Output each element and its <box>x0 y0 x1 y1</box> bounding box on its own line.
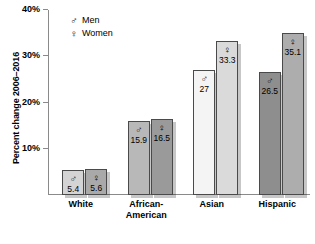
bar-value-label: 15.9 <box>129 135 149 145</box>
male-icon: ♂ <box>129 125 149 135</box>
female-icon: ♀ <box>86 173 106 183</box>
bar-hispanic-men[interactable]: ♂26.5 <box>259 72 281 195</box>
tick-label: 30% <box>22 50 40 60</box>
bar-annotation: ♀5.6 <box>86 173 106 193</box>
bar-asian-women[interactable]: ♀33.3 <box>216 41 238 195</box>
y-tick-20: 20% <box>48 102 49 103</box>
y-tick-40: 40% <box>48 9 49 10</box>
y-tick-30: 30% <box>48 55 49 56</box>
bar-value-label: 5.6 <box>86 183 106 193</box>
tick-mark <box>43 102 48 103</box>
bar-annotation: ♂26.5 <box>260 76 280 96</box>
x-category-label: Hispanic <box>245 199 311 210</box>
female-icon: ♀ <box>283 37 303 47</box>
tick-mark <box>43 9 48 10</box>
bar-african--american-men[interactable]: ♂15.9 <box>128 121 150 195</box>
male-icon: ♂ <box>194 74 214 84</box>
bar-hispanic-women[interactable]: ♀35.1 <box>282 33 304 195</box>
bar-white-women[interactable]: ♀5.6 <box>85 169 107 195</box>
tick-mark <box>43 55 48 56</box>
x-category-label: Asian <box>179 199 245 210</box>
bar-annotation: ♀33.3 <box>217 45 237 65</box>
bar-annotation: ♂5.4 <box>63 174 83 194</box>
y-tick-10: 10% <box>48 148 49 149</box>
bar-white-men[interactable]: ♂5.4 <box>62 170 84 195</box>
female-icon: ♀ <box>152 123 172 133</box>
bar-value-label: 16.5 <box>152 133 172 143</box>
bar-value-label: 27 <box>194 84 214 94</box>
tick-label: 20% <box>22 97 40 107</box>
bar-annotation: ♀16.5 <box>152 123 172 143</box>
y-axis-title: Percent change 2006–2016 <box>11 18 21 198</box>
tick-label: 40% <box>22 4 40 14</box>
plot-area: 10%20%30%40% ♂ Men ♀ Women ♂5.4♀5.6♂15.9… <box>48 10 310 195</box>
bar-group-white: ♂5.4♀5.6 <box>62 10 107 195</box>
bar-chart: Percent change 2006–2016 10%20%30%40% ♂ … <box>0 0 315 244</box>
tick-mark <box>43 148 48 149</box>
male-icon: ♂ <box>63 174 83 184</box>
bar-group-asian: ♂27♀33.3 <box>193 10 238 195</box>
bar-group-hispanic: ♂26.5♀35.1 <box>259 10 304 195</box>
bar-annotation: ♀35.1 <box>283 37 303 57</box>
female-icon: ♀ <box>217 45 237 55</box>
bar-value-label: 26.5 <box>260 86 280 96</box>
tick-label: 10% <box>22 143 40 153</box>
bar-value-label: 33.3 <box>217 55 237 65</box>
bar-african--american-women[interactable]: ♀16.5 <box>151 119 173 195</box>
bar-asian-men[interactable]: ♂27 <box>193 70 215 195</box>
y-axis-line <box>48 10 49 195</box>
x-category-label: African- American <box>114 199 180 221</box>
bar-annotation: ♂27 <box>194 74 214 94</box>
bar-value-label: 5.4 <box>63 184 83 194</box>
bar-value-label: 35.1 <box>283 47 303 57</box>
bar-group-african--american: ♂15.9♀16.5 <box>128 10 173 195</box>
x-category-label: White <box>48 199 114 210</box>
bar-annotation: ♂15.9 <box>129 125 149 145</box>
male-icon: ♂ <box>260 76 280 86</box>
